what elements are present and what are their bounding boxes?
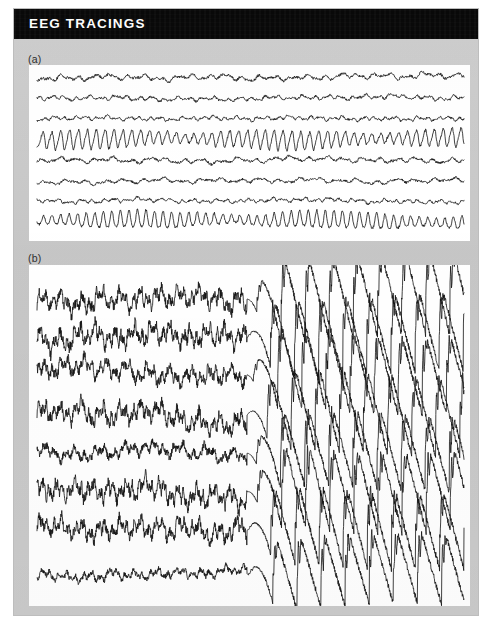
panel-label-a: (a) xyxy=(28,53,41,65)
page-title: EEG TRACINGS xyxy=(29,16,146,31)
eeg-traces-a xyxy=(29,65,470,241)
figure-page: EEG TRACINGS (a) (b) Start of seizure ac… xyxy=(14,9,478,615)
eeg-traces-b xyxy=(29,265,470,606)
panel-label-b: (b) xyxy=(28,252,41,264)
eeg-panel-b: Start of seizure activity ↑ xyxy=(29,265,470,606)
eeg-panel-a xyxy=(29,65,470,241)
figure-title-bar: EEG TRACINGS xyxy=(14,9,478,39)
